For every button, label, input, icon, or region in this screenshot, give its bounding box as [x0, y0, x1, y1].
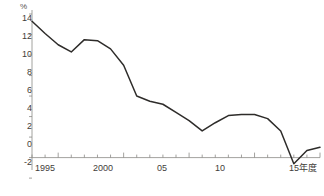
y-tick-marks	[29, 14, 32, 178]
line-chart: % 14 12 10 8 6 4 2 0 -2 1995 2000 05 10 …	[0, 0, 324, 196]
plot-area	[0, 0, 324, 196]
x-tick-marks	[32, 153, 320, 158]
data-series-line	[32, 21, 320, 164]
axis-lines	[32, 10, 320, 170]
